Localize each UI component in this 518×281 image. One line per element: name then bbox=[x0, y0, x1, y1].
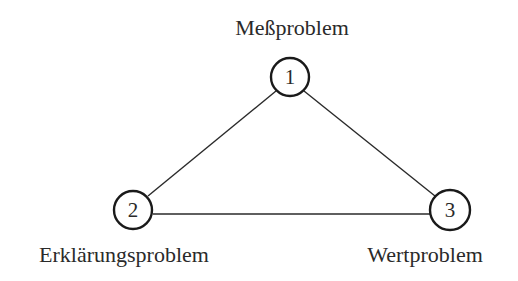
node-1: 1 Meßproblem bbox=[235, 15, 349, 96]
problem-triangle-diagram: 1 Meßproblem 2 Erklärungsproblem 3 Wertp… bbox=[0, 0, 518, 281]
edge-1-2 bbox=[148, 91, 276, 196]
node-3: 3 Wertproblem bbox=[367, 190, 483, 267]
node-1-label: Meßproblem bbox=[235, 15, 349, 40]
node-2: 2 Erklärungsproblem bbox=[39, 191, 209, 267]
node-2-label: Erklärungsproblem bbox=[39, 242, 209, 267]
node-3-number: 3 bbox=[445, 198, 456, 222]
node-2-number: 2 bbox=[128, 198, 139, 222]
edge-1-3 bbox=[304, 91, 435, 196]
node-3-label: Wertproblem bbox=[367, 242, 483, 267]
node-1-number: 1 bbox=[285, 65, 296, 89]
